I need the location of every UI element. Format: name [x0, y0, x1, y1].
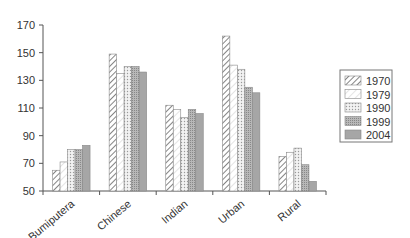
legend-label: 1970: [366, 75, 390, 87]
bar-rural-2004: [309, 181, 317, 191]
bar-rural-1990: [294, 148, 302, 191]
legend-swatch-1990: [345, 103, 361, 112]
x-category-label: Bumiputera: [26, 197, 77, 238]
legend-swatch-1999: [345, 117, 361, 126]
x-category-label: Chinese: [95, 197, 134, 232]
chart-legend: 19701979199019992004: [340, 70, 392, 142]
bar-rural-1979: [286, 152, 294, 191]
bar-chinese-1990: [124, 67, 131, 192]
bar-indian-1979: [173, 109, 181, 191]
x-category-label: Indian: [159, 197, 190, 225]
chart-bars: [53, 36, 317, 191]
bar-bumiputera-1970: [53, 170, 61, 191]
bar-indian-1990: [181, 118, 189, 191]
legend-label: 1979: [366, 89, 390, 101]
bar-bumiputera-1999: [75, 150, 83, 192]
bar-urban-1979: [230, 65, 238, 191]
legend-swatch-1970: [345, 76, 361, 85]
bar-bumiputera-2004: [83, 145, 91, 191]
bar-chinese-2004: [139, 72, 147, 191]
y-tick-label: 50: [23, 185, 35, 197]
bar-bumiputera-1990: [68, 150, 76, 192]
bar-chinese-1999: [132, 67, 140, 192]
y-tick-label: 150: [17, 47, 35, 59]
bar-rural-1970: [279, 156, 287, 191]
legend-label: 1990: [366, 102, 390, 114]
legend-swatch-2004: [345, 130, 361, 139]
bar-indian-2004: [196, 114, 204, 191]
bar-bumiputera-1979: [60, 162, 68, 191]
x-category-label: Urban: [216, 197, 247, 225]
y-tick-label: 110: [17, 102, 35, 114]
bar-chinese-1979: [117, 73, 125, 191]
x-category-label: Rural: [275, 197, 303, 223]
bar-indian-1970: [166, 105, 174, 191]
legend-swatch-1979: [345, 90, 361, 99]
bar-chinese-1970: [109, 54, 117, 191]
bar-urban-1999: [245, 87, 253, 191]
bar-urban-1970: [222, 36, 230, 191]
legend-label: 2004: [366, 129, 390, 141]
legend-label: 1999: [366, 116, 390, 128]
bar-rural-1999: [301, 165, 309, 191]
bar-indian-1999: [188, 109, 196, 191]
y-tick-label: 70: [23, 157, 35, 169]
y-tick-label: 90: [23, 130, 35, 142]
bar-urban-2004: [252, 93, 260, 191]
y-tick-label: 170: [17, 19, 35, 31]
bar-urban-1990: [237, 69, 245, 191]
bar-chart: 507090110130150170BumiputeraChineseIndia…: [0, 0, 410, 238]
y-tick-label: 130: [17, 74, 35, 86]
